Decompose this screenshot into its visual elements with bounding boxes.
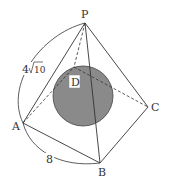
vertex-label-B: B [98, 166, 106, 179]
pyramid-diagram: P A B C D 4 10 8 [0, 0, 169, 185]
vertex-label-D: D [71, 76, 80, 89]
length-label-AB: 8 [46, 153, 53, 166]
length-label-PA-coef: 4 [22, 63, 29, 76]
vertex-label-C: C [151, 101, 159, 114]
edge-BC [100, 107, 148, 163]
vertex-label-P: P [81, 8, 89, 21]
length-label-PA-radicand: 10 [34, 65, 46, 75]
vertex-label-A: A [11, 120, 21, 133]
edge-AB [23, 123, 100, 163]
inscribed-sphere [53, 66, 113, 126]
edge-PD [74, 23, 85, 67]
